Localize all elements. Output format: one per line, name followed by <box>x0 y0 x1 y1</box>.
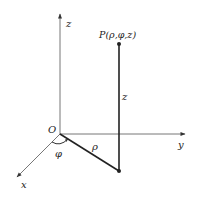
y-axis-label: y <box>177 139 184 150</box>
radius-label: ρ <box>91 141 98 152</box>
point-label: P(ρ,φ,z) <box>98 29 136 40</box>
z-axis-label: z <box>65 18 72 29</box>
x-axis <box>17 134 60 177</box>
angle-label: φ <box>55 148 62 159</box>
cylindrical-coordinates-diagram: z y x O P(ρ,φ,z) z ρ φ <box>0 0 197 200</box>
x-axis-label: x <box>21 179 27 190</box>
foot-point <box>117 169 121 173</box>
point-p <box>117 42 121 46</box>
height-label: z <box>121 91 128 102</box>
origin-label: O <box>48 124 56 135</box>
radius-segment <box>60 134 119 171</box>
